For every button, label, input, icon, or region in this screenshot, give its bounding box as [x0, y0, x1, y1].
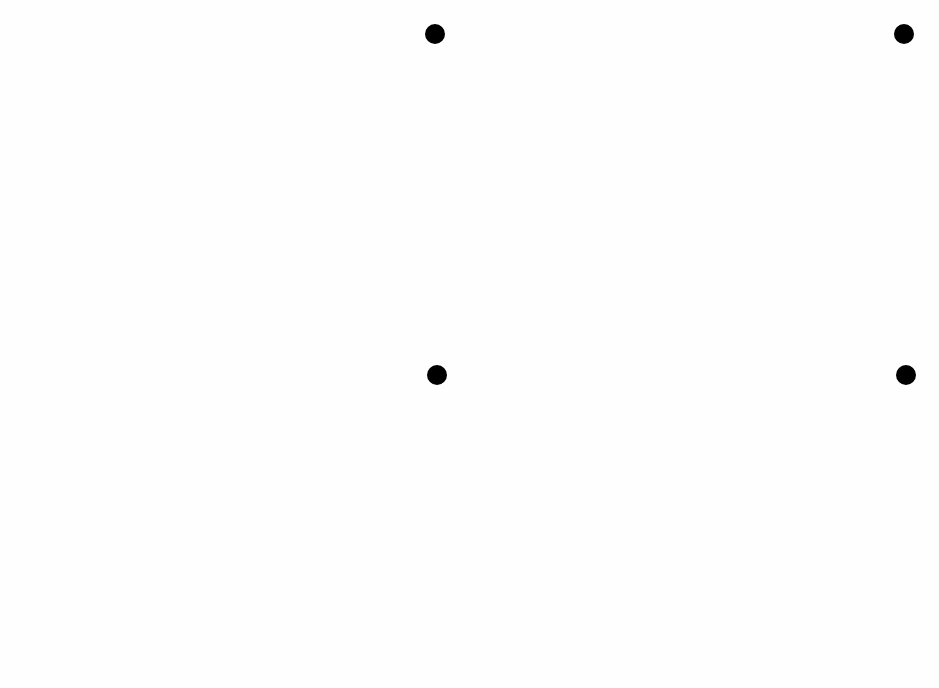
- dot-top-left: [425, 24, 445, 44]
- blank-page-canvas: [0, 0, 939, 688]
- dot-top-right: [894, 24, 914, 44]
- dot-bottom-right: [896, 365, 916, 385]
- dot-bottom-left: [427, 365, 447, 385]
